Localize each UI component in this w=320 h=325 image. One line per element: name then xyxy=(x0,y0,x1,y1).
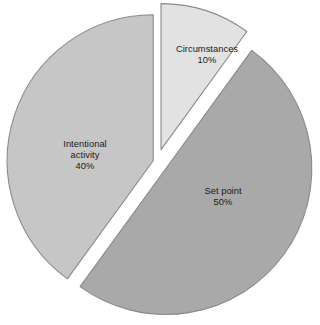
slice-label-intentional-activity-name-line1: Intentional xyxy=(43,139,127,150)
slice-label-circumstances: Circumstances 10% xyxy=(160,44,254,66)
slice-label-set-point: Set point 50% xyxy=(186,186,260,208)
slice-label-intentional-activity-name-line2: activity xyxy=(43,150,127,161)
slice-label-circumstances-name: Circumstances xyxy=(160,44,254,55)
slice-label-set-point-value: 50% xyxy=(186,197,260,208)
pie-chart: Circumstances 10% Intentional activity 4… xyxy=(0,0,320,325)
slice-label-set-point-name: Set point xyxy=(186,186,260,197)
slice-label-intentional-activity-value: 40% xyxy=(43,161,127,172)
slice-label-intentional-activity: Intentional activity 40% xyxy=(43,139,127,173)
slice-label-circumstances-value: 10% xyxy=(160,55,254,66)
